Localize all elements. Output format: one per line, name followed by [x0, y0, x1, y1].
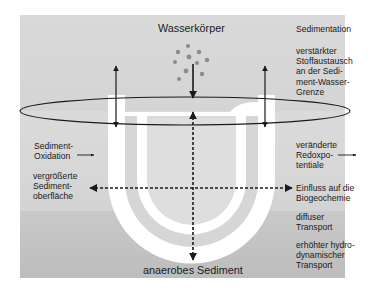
label-sedimentation: Sedimentation — [296, 24, 351, 34]
label-redoxpotentiale: veränderte Redoxpo- tentiale — [296, 140, 337, 171]
label-diffuser-transport: diffuser Transport — [296, 212, 332, 232]
label-stoffaustausch: verstärkter Stoffaustausch an der Sedi- … — [296, 46, 353, 97]
label-sedimentoberflaeche: vergrößerte Sediment- oberfläche — [33, 171, 77, 202]
burrow-core — [147, 118, 236, 225]
label-biogeochemie: Einfluss auf die Biogeochemie — [296, 183, 354, 203]
bioturbation-diagram: Wasserkörper anaerobes Sediment Sediment… — [0, 0, 379, 296]
water-body-title: Wasserkörper — [158, 22, 225, 34]
label-hydrodynamischer-transport: erhöhter hydro- dynamischer Transport — [296, 240, 355, 271]
label-sediment-oxidation: Sediment- Oxidation — [34, 141, 73, 161]
anaerobic-sediment-title: anaerobes Sediment — [143, 264, 243, 276]
